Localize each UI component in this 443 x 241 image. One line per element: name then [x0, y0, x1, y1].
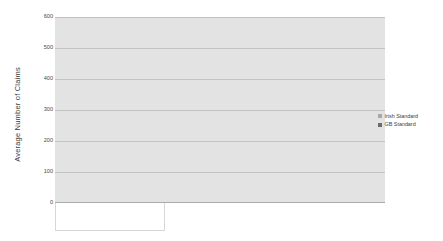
x-group-box: [55, 203, 165, 231]
legend-label: Irish Standard: [385, 112, 419, 120]
y-tick-label: 600: [27, 14, 53, 20]
y-tick-label: 0: [27, 200, 53, 206]
y-tick-label: 100: [27, 169, 53, 175]
y-tick-label: 400: [27, 76, 53, 82]
legend-swatch-icon: [378, 123, 382, 127]
chart-legend: Irish Standard GB Standard: [378, 112, 418, 129]
y-axis-title: Average Number of Claims: [13, 30, 22, 200]
bars-layer: [55, 17, 385, 203]
bar-chart: Average Number of Claims 010020030040050…: [0, 0, 443, 241]
legend-item-irish-standard: Irish Standard: [378, 112, 418, 120]
legend-label: GB Standard: [385, 120, 416, 128]
y-tick-label: 500: [27, 45, 53, 51]
y-tick-label: 200: [27, 138, 53, 144]
y-tick-label: 300: [27, 107, 53, 113]
legend-swatch-icon: [378, 114, 382, 118]
legend-item-gb-standard: GB Standard: [378, 120, 418, 128]
plot-area: [55, 17, 385, 203]
